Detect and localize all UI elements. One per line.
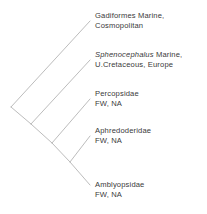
taxon-label-amblyopsidae: Amblyopsidae FW, NA (95, 180, 145, 200)
branch-group (11, 21, 90, 185)
branch-node3-to-percopsidae (52, 99, 90, 143)
taxon-label-line-2: FW, NA (95, 190, 145, 200)
taxon-label-aphredoderidae: Aphredoderidae FW, NA (95, 126, 151, 146)
taxon-label-line-1: Sphenocephalus Marine, (95, 50, 182, 60)
branch-node2-to-node3 (31, 124, 52, 143)
cladogram-figure: Gadiformes Marine, Cosmopolitan Sphenoce… (0, 0, 207, 214)
branch-root-to-gadiformes (11, 21, 90, 107)
taxon-label-sphenocephalus: Sphenocephalus Marine, U.Cretaceous, Eur… (95, 50, 182, 70)
branch-node3-to-node4 (52, 143, 70, 162)
taxon-label-line-1: Percopsidae (95, 89, 139, 99)
branch-node2-to-sphenocephalus (31, 60, 90, 124)
taxon-label-line-1: Gadiformes Marine, (95, 11, 164, 21)
taxon-habitat-text: Marine, (154, 50, 183, 59)
taxon-label-line-1: Aphredoderidae (95, 126, 151, 136)
taxon-label-line-2: FW, NA (95, 136, 151, 146)
branch-root-to-node2 (11, 107, 31, 124)
taxon-label-line-2: Cosmopolitan (95, 21, 164, 31)
branch-node4-to-aphredoderidae (70, 136, 90, 162)
taxon-label-line-1: Amblyopsidae (95, 180, 145, 190)
taxon-genus-name: Sphenocephalus (95, 50, 154, 59)
taxon-label-line-2: U.Cretaceous, Europe (95, 60, 182, 70)
taxon-label-percopsidae: Percopsidae FW, NA (95, 89, 139, 109)
branch-node4-to-amblyopsidae (70, 162, 90, 185)
taxon-label-line-2: FW, NA (95, 99, 139, 109)
taxon-label-gadiformes: Gadiformes Marine, Cosmopolitan (95, 11, 164, 31)
